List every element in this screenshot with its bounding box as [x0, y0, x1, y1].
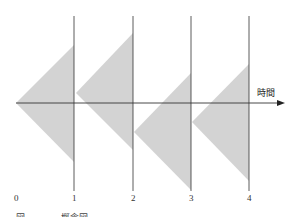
triangle-4	[192, 64, 249, 181]
time-diagram: 時間 0 1 2 3 4 図—— 概念図	[0, 0, 304, 217]
figure-caption: 図—— 概念図	[16, 212, 88, 217]
triangle-1	[16, 45, 74, 162]
tick-1: 1	[72, 193, 77, 203]
tick-labels: 0 1 2 3 4	[14, 193, 252, 203]
axis-arrow-icon	[277, 100, 285, 106]
shaded-triangles	[16, 33, 249, 190]
axis-label: 時間	[257, 88, 275, 98]
tick-2: 2	[131, 193, 136, 203]
triangle-3	[134, 73, 191, 190]
tick-0: 0	[14, 193, 19, 203]
tick-3: 3	[189, 193, 194, 203]
tick-4: 4	[247, 193, 252, 203]
triangle-2	[76, 33, 133, 150]
